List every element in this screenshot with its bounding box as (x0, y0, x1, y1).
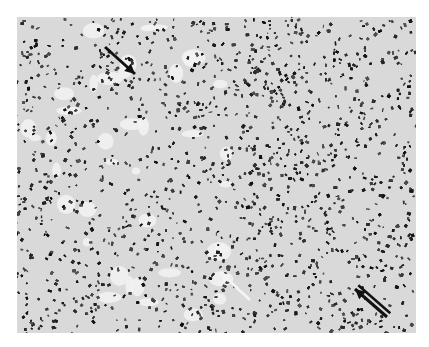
micrograph-image (17, 17, 416, 333)
black-arrow-top-left (105, 47, 135, 74)
black-arrow-bottom-right (355, 285, 390, 317)
annotation-arrows (17, 17, 416, 333)
white-arrow-center (220, 272, 250, 300)
